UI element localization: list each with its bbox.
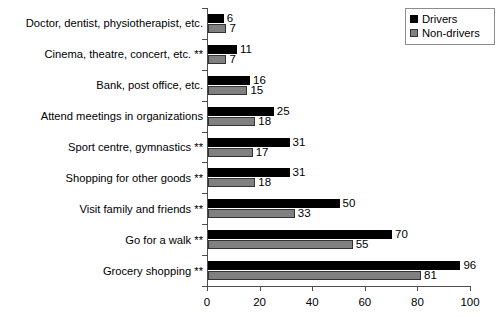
category-axis-labels: Doctor, dentist, physiotherapist, etc.Ci… bbox=[0, 8, 203, 286]
bar-nondrivers bbox=[208, 86, 247, 95]
bar-value-label: 33 bbox=[298, 208, 311, 219]
legend-item: Non-drivers bbox=[410, 26, 490, 40]
bar-nondrivers bbox=[208, 209, 295, 218]
y-axis-tick bbox=[202, 8, 207, 9]
bar-value-label: 25 bbox=[277, 106, 290, 117]
y-axis-tick bbox=[202, 132, 207, 133]
bar-value-label: 50 bbox=[343, 198, 356, 209]
bar-drivers bbox=[208, 199, 340, 208]
bar-value-label: 18 bbox=[258, 177, 271, 188]
legend-item: Drivers bbox=[410, 12, 490, 26]
y-axis-tick bbox=[202, 193, 207, 194]
bar-nondrivers bbox=[208, 117, 255, 126]
category-label: Sport centre, gymnastics ** bbox=[0, 141, 203, 153]
bar-value-label: 55 bbox=[356, 239, 369, 250]
bar-chart: Doctor, dentist, physiotherapist, etc.Ci… bbox=[0, 0, 502, 317]
x-axis-tick-label: 0 bbox=[187, 296, 227, 309]
y-axis-tick bbox=[202, 70, 207, 71]
x-axis-tick-label: 60 bbox=[345, 296, 385, 309]
x-axis-tick-label: 40 bbox=[292, 296, 332, 309]
x-axis-tick bbox=[260, 286, 261, 291]
legend-swatch-nondrivers bbox=[410, 29, 418, 37]
bar-value-label: 11 bbox=[240, 44, 252, 55]
x-axis-tick-label: 80 bbox=[397, 296, 437, 309]
category-label: Attend meetings in organizations bbox=[0, 110, 203, 122]
y-axis-tick bbox=[202, 39, 207, 40]
bar-drivers bbox=[208, 14, 224, 23]
legend-label: Non-drivers bbox=[422, 27, 480, 39]
bar-value-label: 17 bbox=[256, 147, 269, 158]
bar-nondrivers bbox=[208, 55, 226, 64]
bar-drivers bbox=[208, 76, 250, 85]
x-axis-line bbox=[207, 286, 470, 287]
x-axis-tick bbox=[417, 286, 418, 291]
bar-value-label: 15 bbox=[250, 85, 263, 96]
x-axis-tick-label: 20 bbox=[240, 296, 280, 309]
bar-value-label: 7 bbox=[229, 54, 235, 65]
x-axis-tick bbox=[470, 286, 471, 291]
bar-value-label: 70 bbox=[395, 229, 408, 240]
bar-value-label: 7 bbox=[229, 23, 235, 34]
bar-value-label: 18 bbox=[258, 116, 271, 127]
category-label: Visit family and friends ** bbox=[0, 203, 203, 215]
bar-value-label: 96 bbox=[463, 260, 476, 271]
bar-drivers bbox=[208, 168, 290, 177]
category-label: Bank, post office, etc. bbox=[0, 79, 203, 91]
x-axis-tick-label: 100 bbox=[450, 296, 490, 309]
category-label: Shopping for other goods ** bbox=[0, 172, 203, 184]
bar-nondrivers bbox=[208, 271, 421, 280]
y-axis-tick bbox=[202, 224, 207, 225]
y-axis-tick bbox=[202, 255, 207, 256]
bar-value-label: 31 bbox=[293, 167, 306, 178]
legend-swatch-drivers bbox=[410, 15, 418, 23]
category-label: Doctor, dentist, physiotherapist, etc. bbox=[0, 17, 203, 29]
category-label: Grocery shopping ** bbox=[0, 265, 203, 277]
x-axis-tick bbox=[365, 286, 366, 291]
x-axis-tick bbox=[312, 286, 313, 291]
bar-nondrivers bbox=[208, 148, 253, 157]
y-axis-tick bbox=[202, 162, 207, 163]
plot-area: 671171615251831173118503370559681 020406… bbox=[207, 8, 470, 286]
bar-drivers bbox=[208, 138, 290, 147]
legend-label: Drivers bbox=[422, 13, 457, 25]
bar-nondrivers bbox=[208, 178, 255, 187]
category-label: Cinema, theatre, concert, etc. ** bbox=[0, 48, 203, 60]
bar-nondrivers bbox=[208, 240, 353, 249]
chart-legend: DriversNon-drivers bbox=[405, 8, 495, 45]
bar-value-label: 81 bbox=[424, 270, 437, 281]
y-axis-tick bbox=[202, 101, 207, 102]
bar-drivers bbox=[208, 261, 460, 270]
bar-value-label: 31 bbox=[293, 137, 306, 148]
bar-nondrivers bbox=[208, 24, 226, 33]
x-axis-tick bbox=[207, 286, 208, 291]
category-label: Go for a walk ** bbox=[0, 234, 203, 246]
